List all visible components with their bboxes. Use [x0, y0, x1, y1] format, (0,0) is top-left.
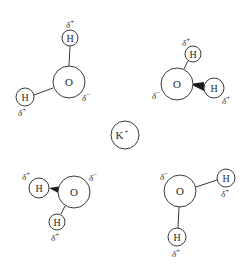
partial-charge-label: δ+	[18, 106, 26, 118]
partial-charge-label: δ+	[222, 94, 230, 106]
partial-charge-label: δ+	[22, 170, 30, 182]
partial-charge-label: δ+	[66, 18, 74, 30]
bond	[34, 88, 53, 95]
partial-charge-label: δ−	[82, 91, 90, 103]
hydrogen-label: H	[53, 217, 60, 228]
hydrogen-label: H	[189, 49, 196, 60]
hydrogen-label: H	[210, 83, 217, 94]
hydrogen-label: H	[35, 183, 42, 194]
water-molecule-bottom-left: O H H δ+ δ− δ+	[22, 170, 97, 243]
bond	[61, 206, 65, 214]
bond	[69, 46, 70, 66]
hydrogen-label: H	[222, 173, 229, 184]
partial-charge-label: δ−	[160, 170, 168, 182]
oxygen-label: O	[65, 76, 73, 88]
bond	[196, 180, 217, 187]
partial-charge-label: δ+	[182, 36, 190, 48]
hydrogen-label: H	[173, 232, 180, 243]
partial-charge-label: δ+	[221, 187, 229, 199]
oxygen-label: O	[173, 78, 181, 90]
bond	[184, 61, 188, 69]
water-molecule-bottom-right: O H H δ− δ+ δ+	[160, 169, 235, 259]
hydrogen-label: H	[66, 33, 73, 44]
partial-charge-label: δ+	[172, 247, 180, 259]
oxygen-label: O	[176, 185, 184, 197]
hydrogen-label: H	[21, 92, 28, 103]
bond	[178, 207, 179, 228]
oxygen-label: O	[70, 186, 78, 198]
water-molecule-top-left: O H H δ+ δ− δ+	[16, 18, 90, 118]
partial-charge-label: δ−	[152, 89, 160, 101]
partial-charge-label: δ+	[51, 231, 59, 243]
hydration-diagram: O H H δ+ δ− δ+ O H H δ+ δ− δ+ K+ O H H δ…	[0, 0, 249, 268]
partial-charge-label: δ−	[89, 171, 97, 183]
potassium-ion: K+	[111, 121, 139, 149]
water-molecule-top-right: O H H δ+ δ− δ+	[152, 36, 230, 106]
